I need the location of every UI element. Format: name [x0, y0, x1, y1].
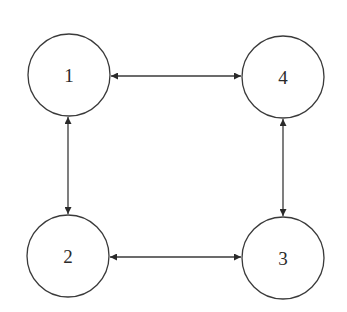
node-3-label: 3	[278, 248, 288, 269]
node-4-label: 4	[278, 67, 288, 88]
node-1-label: 1	[64, 65, 74, 86]
diagram-canvas: 1 4 2 3	[0, 0, 347, 312]
node-3: 3	[242, 217, 324, 299]
node-1: 1	[28, 34, 110, 116]
graph-svg: 1 4 2 3	[0, 0, 347, 312]
node-4: 4	[242, 36, 324, 118]
node-2: 2	[27, 215, 109, 297]
node-2-label: 2	[63, 246, 73, 267]
